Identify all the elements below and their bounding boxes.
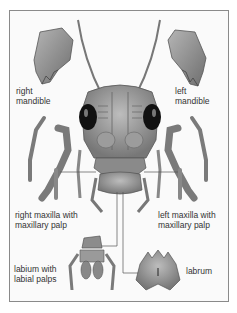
label-labium: labium with labial palps xyxy=(14,264,57,284)
mouthpart-cluster xyxy=(92,158,148,212)
right-maxilla-part xyxy=(30,118,80,198)
left-maxilla-part xyxy=(158,118,206,198)
left-antenna xyxy=(136,20,160,95)
right-antenna xyxy=(78,20,102,95)
labrum-part xyxy=(136,250,180,290)
right-compound-eye xyxy=(79,104,97,130)
label-right-maxilla: right maxilla with maxillary palp xyxy=(15,210,78,230)
right-mandible-part xyxy=(34,28,73,84)
labium-part xyxy=(70,236,114,290)
label-right-mandible: right mandible xyxy=(16,86,51,106)
left-mandible-part xyxy=(168,30,206,86)
label-left-maxilla: left maxilla with maxillary palp xyxy=(158,210,216,230)
label-labrum: labrum xyxy=(186,266,212,276)
left-compound-eye xyxy=(143,104,161,130)
head-capsule xyxy=(79,85,161,158)
label-left-mandible: left mandible xyxy=(175,86,210,106)
